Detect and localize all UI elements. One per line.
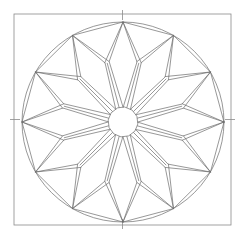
rosette-diagram <box>0 0 245 238</box>
figure-root <box>0 0 245 238</box>
canvas-background <box>0 0 245 238</box>
